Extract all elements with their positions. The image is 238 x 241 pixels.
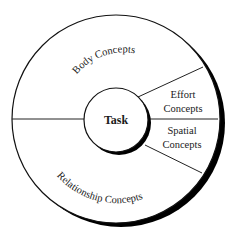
effort-concepts-label-line2: Concepts (163, 103, 202, 114)
effort-concepts-label-line1: Effort (171, 89, 196, 100)
task-concepts-wheel-diagram: Task Body Concepts Effort Concepts Spati… (0, 0, 238, 241)
spatial-concepts-label-line1: Spatial (167, 125, 196, 136)
task-label: Task (104, 113, 129, 127)
spatial-concepts-label-line2: Concepts (162, 139, 201, 150)
